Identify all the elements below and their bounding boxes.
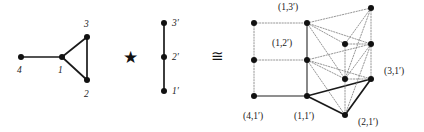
graph-vertex <box>342 76 348 82</box>
vertex-label: 4 <box>17 66 22 76</box>
congruent-operator-icon: ≅ <box>211 49 224 64</box>
graph-edge <box>345 8 371 79</box>
vertex-label: (2,1′) <box>358 118 378 128</box>
star-operator-icon: ★ <box>123 49 138 66</box>
vertex-label: (1,2′) <box>272 39 292 49</box>
graph-vertex <box>251 57 257 63</box>
graph-vertex <box>342 112 348 118</box>
graph-canvas <box>0 0 424 132</box>
vertex-label: 2 <box>84 90 89 100</box>
graph-vertex <box>84 77 90 83</box>
vertex-label: 1 <box>58 66 63 76</box>
vertex-label: (3,1′) <box>384 67 404 77</box>
graph-product-figure: 41323′2′1′(4,1′)(1,3′)(1,2′)(1,1′)(2,1′)… <box>0 0 424 132</box>
graph-vertex <box>161 88 167 94</box>
vertex-label: 1′ <box>172 87 179 97</box>
graph-edge <box>307 60 371 79</box>
graph-vertex <box>368 76 374 82</box>
graph-vertex <box>368 41 374 47</box>
graph-vertex <box>304 20 310 26</box>
graph-vertex <box>18 54 24 60</box>
vertex-label: 3′ <box>172 19 179 29</box>
graph-vertex <box>251 93 257 99</box>
graph-edge <box>307 23 345 79</box>
graph-vertex <box>161 54 167 60</box>
vertex-label: (4,1′) <box>243 112 263 122</box>
vertex-label: (1,1′) <box>294 112 314 122</box>
graph-vertex <box>59 54 65 60</box>
graph-vertex <box>304 57 310 63</box>
graph-vertex <box>161 20 167 26</box>
graph-vertex <box>84 34 90 40</box>
vertex-label: 2′ <box>172 53 179 63</box>
graph-vertex <box>251 20 257 26</box>
graph-edge <box>307 44 371 60</box>
graph-vertex <box>368 5 374 11</box>
vertex-label: (1,3′) <box>278 3 298 13</box>
graph-edge <box>62 57 87 80</box>
graph-edge <box>62 37 87 57</box>
graph-vertex <box>342 41 348 47</box>
vertex-label: 3 <box>84 20 89 30</box>
graph-vertex <box>304 93 310 99</box>
